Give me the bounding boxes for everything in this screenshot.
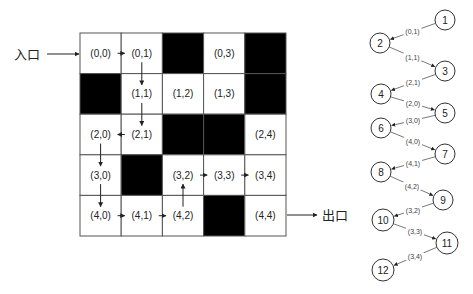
exit: 出口 [287,208,348,223]
tree-edge: (3,4) [394,247,437,265]
maze-open-cell: (4,1) [121,195,162,236]
tree-edge: (2,1) [391,74,435,90]
tree-edge-label: (1,1) [405,54,419,62]
tree-node-label: 9 [440,195,446,206]
cell-label: (3,0) [90,170,111,181]
cell-label: (3,3) [214,170,235,181]
cell-label: (4,1) [132,210,153,221]
maze-open-cell: (1,3) [204,74,245,115]
tree-node: 7 [435,144,455,164]
tree-edge: (3,0) [392,115,436,125]
maze-open-cell: (1,2) [162,74,203,115]
entrance-label: 入口 [14,47,40,62]
tree-node: 11 [436,232,458,254]
maze-open-cell: (3,4) [245,155,286,196]
search-tree-nodes: 123456789101112 [370,10,458,281]
tree-edge-label: (4,2) [405,183,419,191]
entrance: 入口 [14,47,79,62]
tree-edge: (4,1) [392,157,436,169]
cell-label: (2,1) [132,129,153,140]
tree-node: 3 [435,61,455,81]
tree-node-label: 10 [377,215,389,226]
cell-label: (3,2) [173,170,194,181]
tree-edge-label: (4,0) [406,138,420,146]
cell-label: (1,2) [173,88,194,99]
maze-wall-cell [245,74,286,115]
cell-label: (0,3) [214,48,235,59]
tree-edge: (2,0) [391,97,435,110]
tree-node-label: 8 [378,167,384,178]
cell-label: (0,0) [90,48,111,59]
tree-node-label: 3 [442,66,448,77]
maze-wall-cell [121,155,162,196]
maze-open-cell: (0,0) [80,33,121,74]
tree-node: 1 [435,10,455,30]
maze-wall-cell [162,33,203,74]
maze-wall-cell [245,33,286,74]
tree-edge-label: (3,2) [406,207,420,215]
tree-node: 2 [370,33,390,53]
maze-open-cell: (0,3) [204,33,245,74]
maze-wall-cell [204,114,245,155]
cell-label: (4,2) [173,210,194,221]
maze-open-cell: (2,4) [245,114,286,155]
cell-label: (3,4) [255,170,276,181]
maze-open-cell: (4,4) [245,195,286,236]
tree-edge-label: (3,4) [408,253,422,261]
tree-edge-label: (3,0) [406,117,420,125]
tree-node: 4 [371,84,391,104]
maze-diagram: 入口 (0,0)(0,1)(0,3)(1,1)(1,2)(1,3)(2,0)(2… [0,0,473,294]
tree-edge-label: (2,1) [406,79,420,87]
tree-node-label: 11 [442,238,453,249]
cell-label: (4,0) [90,210,111,221]
cell-label: (0,1) [132,48,153,59]
exit-label: 出口 [322,208,348,223]
tree-node-label: 1 [442,15,448,26]
tree-node-label: 12 [377,265,389,276]
tree-node: 5 [435,103,455,123]
cell-label: (4,4) [255,210,276,221]
tree-edge-label: (2,0) [406,100,420,108]
search-tree-edges: (0,1)(1,1)(2,1)(2,0)(3,0)(4,0)(4,1)(4,2)… [389,23,437,265]
tree-edge: (0,1) [390,23,435,39]
tree-edge: (3,3) [393,224,435,239]
tree-node-label: 5 [442,108,448,119]
maze-wall-cell [162,114,203,155]
tree-edge-label: (3,3) [408,228,422,236]
tree-node-label: 6 [378,123,384,134]
tree-node: 10 [372,209,394,231]
tree-edge-label: (4,1) [406,160,420,168]
tree-node: 6 [371,118,391,138]
maze-wall-cell [204,195,245,236]
tree-node-label: 7 [442,149,448,160]
tree-edge: (1,1) [389,47,435,67]
tree-node-label: 2 [377,38,383,49]
tree-node: 9 [433,190,453,210]
tree-edge: (4,2) [390,176,433,195]
tree-edge: (3,2) [394,203,433,216]
cell-label: (2,0) [90,129,111,140]
tree-edge: (4,0) [390,132,435,150]
maze-open-cell: (3,3) [204,155,245,196]
tree-node-label: 4 [378,89,384,100]
tree-edge-label: (0,1) [405,28,419,36]
maze-wall-cell [80,74,121,115]
cell-label: (2,4) [255,129,276,140]
cell-label: (1,3) [214,88,235,99]
cell-label: (1,1) [132,88,153,99]
tree-node: 12 [372,259,394,281]
tree-node: 8 [371,162,391,182]
